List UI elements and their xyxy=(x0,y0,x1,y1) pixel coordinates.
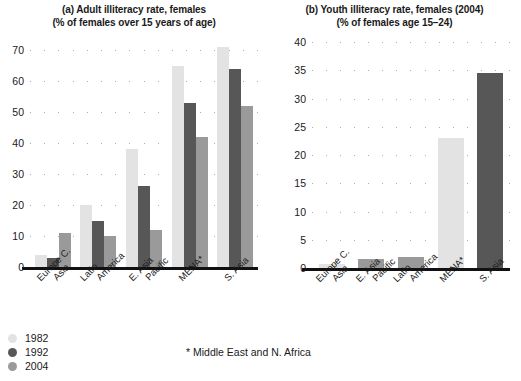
bar-group xyxy=(352,42,392,268)
bar xyxy=(80,205,92,267)
panel-adult-illiteracy: (a) Adult illiteracy rate, females (% of… xyxy=(0,0,268,381)
footnote: * Middle East and N. Africa xyxy=(186,346,311,358)
bar-group xyxy=(312,42,352,268)
bar xyxy=(241,106,253,267)
y-axis-tick-label: 40 xyxy=(0,138,24,148)
y-axis-tick-label: 35 xyxy=(282,65,306,75)
y-axis-tick-label: 15 xyxy=(282,178,306,188)
x-axis-label: E. AsiaPacific xyxy=(352,271,392,331)
legend-swatch-icon xyxy=(8,362,17,371)
x-axis-label: Europe C.Asia xyxy=(30,270,76,330)
bar-group xyxy=(391,42,431,268)
panel-b-title-line2: (% of females age 15–24) xyxy=(268,17,521,30)
bar xyxy=(438,138,464,268)
bar xyxy=(196,137,208,267)
y-axis-tick-label: 25 xyxy=(282,122,306,132)
panel-a-title-line1: (a) Adult illiteracy rate, females xyxy=(62,4,206,15)
bar-group xyxy=(76,50,122,267)
legend-label: 1982 xyxy=(25,333,48,344)
bar xyxy=(229,69,241,267)
bar xyxy=(184,103,196,267)
x-axis-label: MENA* xyxy=(431,271,471,331)
y-axis-tick-label: 30 xyxy=(282,94,306,104)
x-axis-label: LatinAmerica xyxy=(76,270,122,330)
panel-a-title: (a) Adult illiteracy rate, females (% of… xyxy=(0,4,268,29)
bar-groups xyxy=(312,42,510,268)
bar-group xyxy=(431,42,471,268)
panel-b-title-line1: (b) Youth illiteracy rate, females (2004… xyxy=(306,4,484,15)
chart-plot-area-b: 0510152025303540Europe C.AsiaE. AsiaPaci… xyxy=(312,42,510,268)
y-axis-tick-label: 10 xyxy=(0,231,24,241)
y-axis-tick-label: 30 xyxy=(0,169,24,179)
legend-item: 1992 xyxy=(8,345,48,359)
y-axis-tick-label: 20 xyxy=(0,200,24,210)
x-axis-labels: Europe C.AsiaLatinAmericaE. AsiaPacificM… xyxy=(30,270,258,330)
legend-item: 2004 xyxy=(8,359,48,373)
x-axis-label: MENA* xyxy=(167,270,213,330)
bar-group xyxy=(167,50,213,267)
y-axis-tick-label: 0 xyxy=(282,263,306,273)
x-axis-label: E. AsiaPacific xyxy=(121,270,167,330)
legend-item: 1982 xyxy=(8,331,48,345)
y-axis-tick-label: 60 xyxy=(0,76,24,86)
bar xyxy=(217,47,229,267)
y-axis-tick-label: 70 xyxy=(0,45,24,55)
x-axis-label: S. Asia xyxy=(470,271,510,331)
y-axis-tick-label: 20 xyxy=(282,150,306,160)
y-axis-tick-label: 0 xyxy=(0,262,24,272)
bar xyxy=(126,149,138,267)
y-axis-tick-label: 10 xyxy=(282,207,306,217)
x-axis-label: Europe C.Asia xyxy=(312,271,352,331)
bar-group xyxy=(30,50,76,267)
chart-legend: 198219922004 xyxy=(8,331,48,373)
bar-groups xyxy=(30,50,258,267)
panel-b-title: (b) Youth illiteracy rate, females (2004… xyxy=(268,4,521,29)
bar xyxy=(477,73,503,268)
x-axis-label: S. Asia xyxy=(212,270,258,330)
x-axis-labels: Europe C.AsiaE. AsiaPacificLatinAmericaM… xyxy=(312,271,510,331)
chart-plot-area-a: 010203040506070Europe C.AsiaLatinAmerica… xyxy=(30,50,258,267)
panel-a-title-line2: (% of females over 15 years of age) xyxy=(0,17,268,30)
legend-swatch-icon xyxy=(8,334,17,343)
bar-group xyxy=(212,50,258,267)
bar xyxy=(172,66,184,268)
legend-swatch-icon xyxy=(8,348,17,357)
legend-label: 1992 xyxy=(25,347,48,358)
bar-group xyxy=(121,50,167,267)
y-axis-tick-label: 50 xyxy=(0,107,24,117)
x-axis-label: LatinAmerica xyxy=(391,271,431,331)
legend-label: 2004 xyxy=(25,361,48,372)
y-axis-tick-label: 40 xyxy=(282,37,306,47)
bar-group xyxy=(470,42,510,268)
y-axis-tick-label: 5 xyxy=(282,235,306,245)
